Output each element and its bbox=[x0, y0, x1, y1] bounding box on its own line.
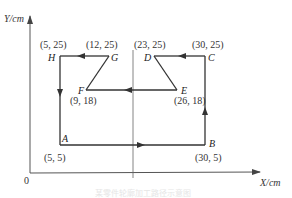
figure-caption: 某零件轮廓加工路径示意图 bbox=[95, 188, 191, 198]
point-D-coord: (23, 25) bbox=[134, 39, 166, 51]
x-axis-label: X/cm bbox=[259, 177, 281, 188]
y-axis-label: Y/cm bbox=[4, 13, 24, 24]
point-B-label: B bbox=[209, 138, 215, 149]
point-H-label: H bbox=[47, 52, 56, 63]
point-C-label: C bbox=[208, 52, 215, 63]
point-G-label: G bbox=[111, 52, 118, 63]
x-axis bbox=[30, 172, 260, 173]
point-A-label: A bbox=[61, 133, 69, 144]
point-C-coord: (30, 25) bbox=[192, 39, 224, 51]
point-A-coord: (5, 5) bbox=[44, 152, 66, 164]
point-G-coord: (12, 25) bbox=[86, 39, 118, 51]
point-H-coord: (5, 25) bbox=[40, 39, 67, 51]
point-F-coord: (9, 18) bbox=[70, 95, 97, 107]
origin-label: 0 bbox=[24, 175, 29, 186]
point-E-coord: (26, 18) bbox=[174, 95, 206, 107]
point-D-label: D bbox=[143, 52, 152, 63]
toolpath-diagram: Y/cm 0 X/cm A (5, bbox=[0, 0, 292, 198]
point-B-coord: (30, 5) bbox=[195, 152, 222, 164]
